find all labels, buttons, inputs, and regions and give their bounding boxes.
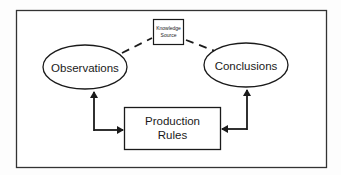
knowledge-source-label-line2: Source (161, 32, 177, 38)
diagram-canvas: Knowledge Source Observations Conclusion… (0, 0, 341, 175)
node-production-rules: Production Rules (125, 108, 221, 150)
conclusions-label: Conclusions (215, 60, 278, 72)
knowledge-source-label-line1: Knowledge (156, 25, 181, 31)
observations-label: Observations (51, 62, 119, 74)
node-knowledge-source: Knowledge Source (154, 20, 184, 45)
node-conclusions: Conclusions (204, 43, 288, 87)
production-rules-label-line1: Production (145, 115, 200, 127)
production-rules-label-line2: Rules (158, 129, 188, 141)
node-observations: Observations (43, 45, 127, 89)
